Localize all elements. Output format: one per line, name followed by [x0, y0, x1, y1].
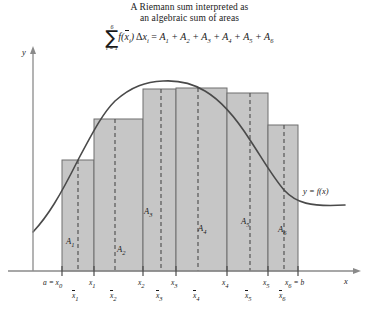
sample-label-x6: x6 — [279, 291, 286, 302]
area-label-a5: A5 — [241, 216, 249, 228]
partition-label-x3: x3 — [171, 278, 178, 289]
formula-right-hand-side: A1 + A2 + A3 + A4 + A5 + A6 — [159, 31, 273, 42]
figure-title-line-1: A Riemann sum interpreted as — [0, 2, 379, 13]
riemann-rectangles — [62, 88, 298, 271]
summation-sigma-icon: ∑ — [106, 30, 119, 45]
partition-label-x6: x6 = b — [285, 278, 304, 289]
formula-integrand: f(xi) Δxi — [118, 31, 148, 42]
riemann-rectangle — [176, 88, 227, 271]
partition-label-x1: x1 — [89, 278, 96, 289]
y-axis-label: y — [22, 47, 26, 57]
partition-label-x4: x4 — [222, 278, 229, 289]
figure-title-line-2: an algebraic sum of areas — [0, 13, 379, 24]
x-axis-arrow — [353, 268, 361, 274]
area-label-a4: A4 — [198, 223, 206, 235]
formula-equals: = — [151, 31, 157, 42]
sample-label-x1: x1 — [72, 291, 79, 302]
riemann-rectangle — [227, 93, 268, 271]
x-axis-label: x — [344, 276, 348, 286]
area-label-a2: A2 — [117, 244, 125, 256]
partition-label-x5: x5 — [263, 278, 270, 289]
partition-label-x0: a = x0 — [43, 278, 62, 289]
area-label-a6: A6 — [278, 224, 286, 236]
curve-label: y = f(x) — [303, 186, 329, 196]
summation-operator: 6 ∑ i = 1 — [106, 24, 119, 51]
riemann-sum-formula: 6 ∑ i = 1 f(xi) Δxi = A1 + A2 + A3 + A4 … — [0, 24, 379, 51]
sample-label-x4: x4 — [193, 291, 200, 302]
area-label-a3: A3 — [144, 206, 152, 218]
sample-label-x2: x2 — [110, 291, 117, 302]
area-label-a1: A1 — [66, 236, 74, 248]
sample-label-x5: x5 — [245, 291, 252, 302]
summation-lower-limit: i = 1 — [106, 45, 119, 51]
partition-label-x2: x2 — [138, 278, 145, 289]
sample-label-x3: x3 — [156, 291, 163, 302]
riemann-rectangle — [143, 89, 176, 271]
